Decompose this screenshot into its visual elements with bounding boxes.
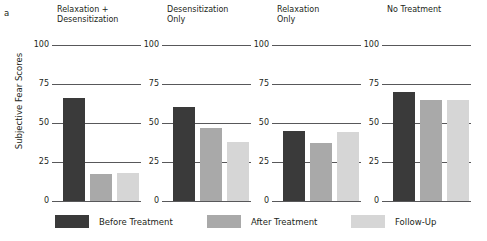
figure-container: a Subjective Fear Scores Relaxation + De… xyxy=(0,0,487,241)
chart-panel: Relaxation Only1007550250 xyxy=(277,0,361,241)
axis-tick xyxy=(382,162,387,163)
bar xyxy=(173,107,195,201)
axis-tick-label: 25 xyxy=(243,158,269,166)
gridline xyxy=(387,45,471,46)
axis-tick xyxy=(162,45,167,46)
plot-area: 1007550250 xyxy=(277,0,361,241)
axis-tick-label: 0 xyxy=(353,197,379,205)
y-axis-title: Subjective Fear Scores xyxy=(14,36,24,166)
axis-tick xyxy=(382,201,387,202)
axis-tick-label: 50 xyxy=(353,119,379,127)
axis-tick xyxy=(52,123,57,124)
axis-tick-label: 0 xyxy=(133,197,159,205)
plot-area: 1007550250 xyxy=(167,0,251,241)
gridline xyxy=(167,84,251,85)
axis-tick-label: 75 xyxy=(23,80,49,88)
bar xyxy=(420,100,442,201)
legend-item: After Treatment xyxy=(207,215,317,228)
axis-tick-label: 25 xyxy=(23,158,49,166)
axis-tick-label: 75 xyxy=(133,80,159,88)
chart-panel: Relaxation + Desensitization1007550250 xyxy=(57,0,141,241)
gridline xyxy=(277,123,361,124)
axis-tick-label: 100 xyxy=(353,41,379,49)
gridline xyxy=(57,45,141,46)
legend-item: Follow-Up xyxy=(351,215,436,228)
axis-tick xyxy=(272,162,277,163)
legend-item: Before Treatment xyxy=(55,215,173,228)
axis-tick xyxy=(382,123,387,124)
figure-panel-letter: a xyxy=(4,8,9,18)
axis-tick-label: 100 xyxy=(243,41,269,49)
axis-tick xyxy=(382,45,387,46)
axis-tick xyxy=(52,201,57,202)
bar xyxy=(337,132,359,201)
axis-tick xyxy=(272,84,277,85)
axis-tick xyxy=(162,84,167,85)
axis-tick xyxy=(162,201,167,202)
chart-panel: Desensitization Only1007550250 xyxy=(167,0,251,241)
axis-tick-label: 75 xyxy=(353,80,379,88)
gridline xyxy=(57,84,141,85)
axis-tick-label: 25 xyxy=(133,158,159,166)
axis-baseline xyxy=(387,201,471,202)
axis-tick xyxy=(162,162,167,163)
axis-tick xyxy=(162,123,167,124)
bar xyxy=(90,174,112,201)
legend-label: Before Treatment xyxy=(99,217,173,227)
bar xyxy=(63,98,85,201)
bar xyxy=(200,128,222,201)
plot-area: 1007550250 xyxy=(57,0,141,241)
axis-baseline xyxy=(167,201,251,202)
bar xyxy=(283,131,305,201)
bar xyxy=(447,100,469,201)
axis-tick xyxy=(52,84,57,85)
axis-tick-label: 50 xyxy=(133,119,159,127)
axis-tick xyxy=(272,123,277,124)
axis-baseline xyxy=(57,201,141,202)
legend-swatch-after-icon xyxy=(207,215,241,228)
axis-tick xyxy=(382,84,387,85)
plot-area: 1007550250 xyxy=(387,0,471,241)
axis-tick-label: 100 xyxy=(23,41,49,49)
legend-label: After Treatment xyxy=(251,217,317,227)
bar xyxy=(227,142,249,201)
axis-tick-label: 0 xyxy=(243,197,269,205)
axis-tick xyxy=(272,45,277,46)
legend-swatch-follow-icon xyxy=(351,215,385,228)
bar xyxy=(310,143,332,201)
gridline xyxy=(167,45,251,46)
axis-tick xyxy=(52,162,57,163)
axis-tick-label: 0 xyxy=(23,197,49,205)
axis-tick xyxy=(52,45,57,46)
axis-tick-label: 25 xyxy=(353,158,379,166)
gridline xyxy=(277,84,361,85)
legend-label: Follow-Up xyxy=(395,217,436,227)
axis-tick-label: 75 xyxy=(243,80,269,88)
axis-baseline xyxy=(277,201,361,202)
axis-tick-label: 50 xyxy=(23,119,49,127)
gridline xyxy=(387,84,471,85)
legend-swatch-before-icon xyxy=(55,215,89,228)
gridline xyxy=(277,45,361,46)
axis-tick-label: 100 xyxy=(133,41,159,49)
chart-panel: No Treatment1007550250 xyxy=(387,0,471,241)
axis-tick xyxy=(272,201,277,202)
axis-tick-label: 50 xyxy=(243,119,269,127)
bar xyxy=(393,92,415,201)
